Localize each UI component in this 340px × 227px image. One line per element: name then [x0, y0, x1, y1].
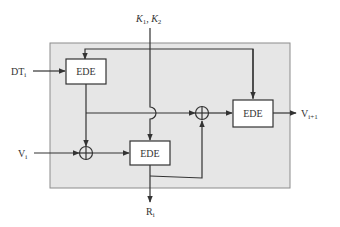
ede-label: EDE	[243, 108, 262, 119]
ede-label: EDE	[140, 148, 159, 159]
keys-label: K1, K2	[135, 13, 162, 26]
ede-block-1: EDE	[66, 59, 106, 84]
ede-block-3: EDE	[233, 100, 273, 127]
r-label: Ri	[146, 206, 155, 219]
ede-block-2: EDE	[130, 141, 170, 165]
v-label: Vi	[18, 148, 27, 161]
xor-icon	[196, 107, 209, 120]
xor-icon	[80, 147, 93, 160]
dt-label: DTi	[11, 66, 26, 79]
ansi-x931-prng-diagram: EDE EDE EDE K1, K2 DTi Vi Vi+1 Ri	[0, 0, 340, 227]
v-next-label: Vi+1	[301, 108, 318, 121]
ede-label: EDE	[76, 66, 95, 77]
